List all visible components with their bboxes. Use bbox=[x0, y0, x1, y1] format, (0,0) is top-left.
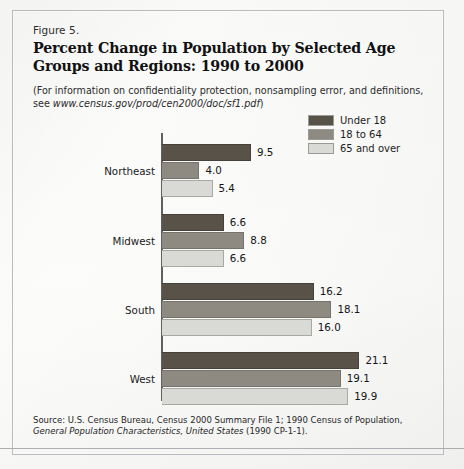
bar-row-midwest-65-and-over: 6.6 bbox=[162, 250, 284, 267]
figure-content: Figure 5. Percent Change in Population b… bbox=[13, 11, 445, 456]
bar-west-under-18 bbox=[162, 352, 359, 369]
bar-row-west-under-18: 21.1 bbox=[162, 352, 419, 369]
bar-value-south-65-and-over: 16.0 bbox=[318, 321, 341, 333]
category-label-south: South bbox=[125, 304, 155, 316]
bar-row-northeast-under-18: 9.5 bbox=[162, 144, 311, 161]
bar-row-west-65-and-over: 19.9 bbox=[162, 388, 408, 405]
bar-northeast-65-and-over bbox=[162, 180, 213, 197]
bar-value-northeast-65-and-over: 5.4 bbox=[219, 182, 235, 194]
bar-value-west-18-to-64: 19.1 bbox=[347, 372, 370, 384]
bar-row-midwest-under-18: 6.6 bbox=[162, 214, 284, 231]
bar-row-midwest-18-to-64: 8.8 bbox=[162, 232, 304, 249]
bar-midwest-65-and-over bbox=[162, 250, 224, 267]
bar-south-18-to-64 bbox=[162, 301, 331, 318]
bar-row-south-18-to-64: 18.1 bbox=[162, 301, 391, 318]
bar-value-midwest-65-and-over: 6.6 bbox=[230, 252, 246, 264]
bar-value-midwest-under-18: 6.6 bbox=[230, 216, 246, 228]
bar-northeast-under-18 bbox=[162, 144, 251, 161]
bar-value-west-65-and-over: 19.9 bbox=[354, 390, 377, 402]
bar-row-south-65-and-over: 16.0 bbox=[162, 319, 372, 336]
bar-south-under-18 bbox=[162, 283, 314, 300]
bar-row-northeast-65-and-over: 5.4 bbox=[162, 180, 273, 197]
bar-northeast-18-to-64 bbox=[162, 162, 199, 179]
bar-row-west-18-to-64: 19.1 bbox=[162, 370, 401, 387]
source-suffix: (1990 CP-1-1). bbox=[243, 426, 307, 436]
bar-value-northeast-under-18: 9.5 bbox=[257, 146, 273, 158]
category-label-northeast: Northeast bbox=[104, 165, 155, 177]
source-publication: General Population Characteristics, Unit… bbox=[33, 426, 243, 436]
category-label-midwest: Midwest bbox=[113, 235, 155, 247]
bar-midwest-under-18 bbox=[162, 214, 224, 231]
bar-midwest-18-to-64 bbox=[162, 232, 244, 249]
bar-west-18-to-64 bbox=[162, 370, 341, 387]
bar-value-midwest-18-to-64: 8.8 bbox=[250, 234, 266, 246]
bar-value-south-18-to-64: 18.1 bbox=[337, 303, 360, 315]
bar-south-65-and-over bbox=[162, 319, 312, 336]
bar-chart-plot: Northeast9.54.05.4Midwest6.68.86.6South1… bbox=[13, 11, 445, 456]
page-divider-rule bbox=[0, 448, 464, 449]
bar-value-west-under-18: 21.1 bbox=[365, 354, 388, 366]
bar-row-south-under-18: 16.2 bbox=[162, 283, 374, 300]
figure-frame: Figure 5. Percent Change in Population b… bbox=[12, 10, 444, 455]
bar-value-northeast-18-to-64: 4.0 bbox=[205, 164, 221, 176]
bar-west-65-and-over bbox=[162, 388, 348, 405]
category-label-west: West bbox=[130, 373, 155, 385]
bar-value-south-under-18: 16.2 bbox=[320, 285, 343, 297]
source-note: Source: U.S. Census Bureau, Census 2000 … bbox=[33, 415, 431, 437]
bar-row-northeast-18-to-64: 4.0 bbox=[162, 162, 259, 179]
source-prefix: Source: U.S. Census Bureau, Census 2000 … bbox=[33, 415, 402, 425]
